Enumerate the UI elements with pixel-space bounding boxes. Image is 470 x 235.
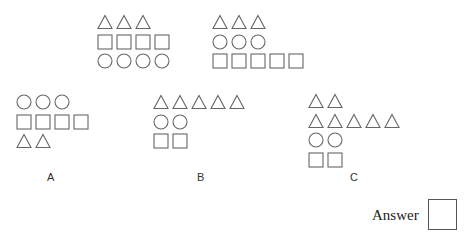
circle-icon xyxy=(97,53,113,69)
circle-row xyxy=(308,132,346,148)
square-icon xyxy=(54,114,70,130)
circle-icon xyxy=(16,94,32,110)
square-icon xyxy=(153,133,169,149)
triangle-icon xyxy=(365,113,381,129)
triangle-icon xyxy=(97,14,113,30)
circle-icon xyxy=(135,53,151,69)
triangle-icon xyxy=(35,133,51,149)
square-icon xyxy=(116,34,132,50)
triangle-icon xyxy=(172,94,188,110)
square-icon xyxy=(73,114,89,130)
circle-row xyxy=(16,94,73,110)
triangle-icon xyxy=(327,93,343,109)
triangle-row xyxy=(16,133,54,149)
triangle-icon xyxy=(308,93,324,109)
triangle-icon xyxy=(135,14,151,30)
circle-row xyxy=(212,34,269,50)
triangle-row xyxy=(212,14,269,30)
answer-label: Answer xyxy=(372,207,419,224)
triangle-icon xyxy=(116,14,132,30)
triangle-icon xyxy=(308,113,324,129)
circle-icon xyxy=(231,34,247,50)
square-icon xyxy=(250,53,266,69)
triangle-row xyxy=(308,93,346,109)
square-row xyxy=(153,133,191,149)
square-icon xyxy=(269,53,285,69)
square-row xyxy=(97,34,173,50)
square-icon xyxy=(308,152,324,168)
square-icon xyxy=(327,152,343,168)
circle-icon xyxy=(116,53,132,69)
triangle-icon xyxy=(191,94,207,110)
triangle-row xyxy=(308,113,403,129)
triangle-icon xyxy=(384,113,400,129)
circle-icon xyxy=(327,132,343,148)
square-icon xyxy=(97,34,113,50)
circle-icon xyxy=(250,34,266,50)
circle-row xyxy=(153,114,191,130)
option-label-c[interactable]: C xyxy=(350,171,358,183)
circle-icon xyxy=(54,94,70,110)
square-icon xyxy=(135,34,151,50)
square-row xyxy=(16,114,92,130)
triangle-row xyxy=(153,94,248,110)
triangle-icon xyxy=(346,113,362,129)
circle-icon xyxy=(153,114,169,130)
square-row xyxy=(212,53,307,69)
square-icon xyxy=(212,53,228,69)
option-label-a[interactable]: A xyxy=(47,171,54,183)
triangle-icon xyxy=(212,14,228,30)
triangle-row xyxy=(97,14,154,30)
square-icon xyxy=(172,133,188,149)
square-row xyxy=(308,152,346,168)
circle-icon xyxy=(154,53,170,69)
circle-icon xyxy=(212,34,228,50)
triangle-icon xyxy=(16,133,32,149)
answer-box[interactable] xyxy=(428,199,457,230)
triangle-icon xyxy=(210,94,226,110)
circle-icon xyxy=(172,114,188,130)
triangle-icon xyxy=(153,94,169,110)
triangle-icon xyxy=(229,94,245,110)
circle-icon xyxy=(35,94,51,110)
circle-icon xyxy=(308,132,324,148)
triangle-icon xyxy=(327,113,343,129)
triangle-icon xyxy=(250,14,266,30)
square-icon xyxy=(35,114,51,130)
triangle-icon xyxy=(231,14,247,30)
option-label-b[interactable]: B xyxy=(197,171,204,183)
square-icon xyxy=(231,53,247,69)
square-icon xyxy=(154,34,170,50)
circle-row xyxy=(97,53,173,69)
square-icon xyxy=(288,53,304,69)
square-icon xyxy=(16,114,32,130)
